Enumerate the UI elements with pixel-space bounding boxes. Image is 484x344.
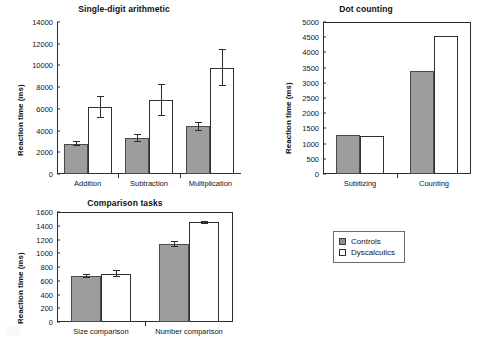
y-axis-tick-mark [323,98,326,99]
y-axis-tick-label: 6000 [36,104,57,113]
y-axis-tick-mark [57,239,60,240]
y-axis-tick-mark [323,82,326,83]
y-axis-tick-label: 600 [40,276,57,285]
bar-dyscalculics-subitizing [360,136,384,174]
y-axis-tick-mark [57,43,60,44]
y-axis-tick-label: 0 [49,318,57,327]
legend-swatch-open-square-icon [339,249,346,256]
y-axis-tick-label: 1400 [36,221,57,230]
chart-title-comparison-tasks: Comparison tasks [14,198,236,208]
y-axis-tick-label: 200 [40,304,57,313]
y-axis-tick-label: 14000 [32,18,57,27]
bar-controls-size-comparison [71,276,101,322]
bar-controls-subtraction [125,138,149,174]
y-axis-tick-mark [57,174,60,175]
y-axis-tick-mark [57,65,60,66]
y-axis-tick-label: 4000 [302,48,323,57]
y-axis-tick-mark [323,22,326,23]
y-axis-tick-label: 10000 [32,61,57,70]
error-bar [100,96,101,118]
plot-area-comparison-tasks: 02004006008001000120014001600Size compar… [57,212,233,322]
x-axis-tick-mark [145,322,146,326]
bar-controls-counting [410,71,434,174]
legend-item-controls: Controls [339,236,395,247]
y-axis-label-single-digit-arithmetic: Reaction time (ms) [16,84,25,156]
y-axis-tick-label: 4500 [302,33,323,42]
legend-item-dyscalculics: Dyscalculics [339,247,395,258]
error-bar [204,221,205,224]
error-bar [222,49,223,86]
error-bar [174,241,175,247]
x-axis-tick-mark [397,174,398,178]
bar-controls-subitizing [336,135,360,174]
y-axis-tick-label: 2500 [302,94,323,103]
y-axis-tick-label: 1200 [36,235,57,244]
y-axis-tick-label: 5000 [302,18,323,27]
x-axis-label: Addition [74,179,101,188]
error-bar [137,134,138,142]
y-axis-tick-mark [57,87,60,88]
y-axis-tick-mark [57,308,60,309]
y-axis-tick-label: 400 [40,290,57,299]
chart-panel-single-digit-arithmetic: Single-digit arithmetic Reaction time (m… [0,4,248,196]
y-axis-tick-label: 3500 [302,63,323,72]
y-axis-tick-label: 12000 [32,39,57,48]
y-axis-tick-label: 1500 [302,124,323,133]
y-axis-tick-label: 1000 [36,249,57,258]
y-axis-tick-label: 0 [49,170,57,179]
y-axis-tick-mark [323,67,326,68]
x-axis-tick-mark [180,174,181,178]
error-bar [198,122,199,131]
y-axis-tick-label: 1000 [302,139,323,148]
y-axis-tick-mark [323,174,326,175]
chart-panel-comparison-tasks: Comparison tasks Reaction time (ms) 0200… [0,198,248,344]
y-axis-tick-mark [57,253,60,254]
y-axis-tick-label: 8000 [36,83,57,92]
x-axis-label: Size comparison [73,327,128,336]
bar-dyscalculics-size-comparison [101,274,131,322]
plot-area-dot-counting: 0500100015002000250030003500400045005000… [323,22,471,174]
error-bar [161,84,162,115]
legend-label-dyscalculics: Dyscalculics [351,248,395,257]
y-axis-tick-label: 4000 [36,126,57,135]
y-axis-tick-label: 2000 [36,148,57,157]
y-axis-label-comparison-tasks: Reaction time (ms) [16,252,25,324]
legend-swatch-filled-square-icon [339,238,346,245]
y-axis-tick-mark [323,52,326,53]
bar-dyscalculics-number-comparison [189,222,219,322]
y-axis-tick-mark [57,108,60,109]
y-axis-tick-mark [57,294,60,295]
y-axis-tick-mark [57,130,60,131]
x-axis-label: Subitizing [344,179,377,188]
chart-title-single-digit-arithmetic: Single-digit arithmetic [0,4,248,14]
plot-area-single-digit-arithmetic: 02000400060008000100001200014000Addition… [57,22,241,174]
y-axis-tick-mark [57,212,60,213]
chart-panel-dot-counting: Dot counting Reaction time (ms) 05001000… [248,4,484,196]
y-axis-tick-label: 2000 [302,109,323,118]
y-axis-tick-label: 800 [40,263,57,272]
x-axis-tick-mark [118,174,119,178]
x-axis-label: Counting [419,179,449,188]
y-axis-label-dot-counting: Reaction time (ms) [284,82,293,154]
y-axis-tick-label: 500 [306,154,323,163]
error-bar [76,141,77,146]
y-axis-tick-mark [57,225,60,226]
legend-label-controls: Controls [351,237,381,246]
error-bar [116,270,117,278]
y-axis-tick-label: 1600 [36,208,57,217]
legend: Controls Dyscalculics [333,231,405,263]
y-axis-tick-label: 3000 [302,78,323,87]
error-bar [86,274,87,278]
y-axis-tick-mark [323,143,326,144]
bar-controls-multiplication [186,126,210,174]
bar-dyscalculics-counting [434,36,458,174]
y-axis-tick-mark [57,322,60,323]
y-axis-tick-mark [323,158,326,159]
y-axis-tick-mark [57,152,60,153]
y-axis-tick-mark [323,128,326,129]
y-axis-tick-mark [57,280,60,281]
y-axis-tick-mark [323,113,326,114]
y-axis-tick-label: 0 [315,170,323,179]
chart-title-dot-counting: Dot counting [248,4,484,14]
y-axis-tick-mark [57,267,60,268]
